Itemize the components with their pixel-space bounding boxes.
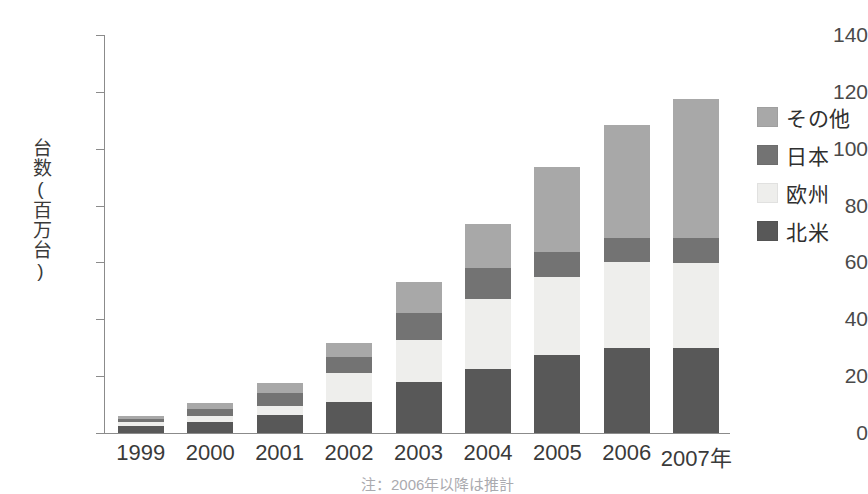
bar-2002 <box>326 343 372 433</box>
plot-area <box>104 35 729 433</box>
x-axis-label-2007: 2007年 <box>659 440 733 472</box>
bar-segment-欧州 <box>673 263 719 348</box>
y-axis-tick-label: 60 <box>778 250 868 274</box>
y-axis-tick <box>96 262 104 263</box>
x-axis-label-2002: 2002 <box>312 440 386 466</box>
chart-legend: その他日本欧州北米 <box>757 100 862 252</box>
x-axis-label-2000: 2000 <box>173 440 247 466</box>
legend-item-欧州[interactable]: 欧州 <box>757 176 862 209</box>
y-axis-tick-label: 40 <box>778 307 868 331</box>
bar-segment-その他 <box>465 224 511 268</box>
bar-segment-日本 <box>326 357 372 373</box>
y-axis-tick-label: 0 <box>778 421 868 445</box>
bar-segment-欧州 <box>326 373 372 402</box>
legend-item-その他[interactable]: その他 <box>757 100 862 133</box>
bar-segment-日本 <box>187 409 233 416</box>
bar-2000 <box>187 403 233 433</box>
bar-segment-日本 <box>534 252 580 277</box>
y-axis-tick <box>96 376 104 377</box>
bar-segment-日本 <box>465 268 511 299</box>
y-axis-title: 台数(百万台) <box>22 138 50 282</box>
legend-swatch-icon <box>757 221 778 241</box>
bar-2006 <box>604 125 650 433</box>
bar-segment-その他 <box>534 167 580 252</box>
x-axis-label-2001: 2001 <box>243 440 317 466</box>
bar-segment-欧州 <box>465 299 511 369</box>
y-axis-tick-label: 140 <box>778 23 868 47</box>
bar-segment-その他 <box>604 125 650 238</box>
bar-segment-欧州 <box>396 340 442 382</box>
legend-item-label: 北米 <box>786 216 829 246</box>
x-axis-line <box>104 433 730 434</box>
bar-segment-日本 <box>673 238 719 263</box>
bar-segment-日本 <box>604 238 650 262</box>
y-axis-tick-label: 20 <box>778 364 868 388</box>
y-axis-tick <box>96 433 104 434</box>
x-axis-label-2004: 2004 <box>451 440 525 466</box>
legend-item-label: 欧州 <box>786 178 829 208</box>
y-axis-tick <box>96 35 104 36</box>
x-axis-label-1999: 1999 <box>104 440 178 466</box>
bar-segment-その他 <box>257 383 303 393</box>
bar-segment-欧州 <box>257 406 303 415</box>
bar-2005 <box>534 167 580 433</box>
y-axis-tick <box>96 319 104 320</box>
legend-item-日本[interactable]: 日本 <box>757 138 862 171</box>
bar-segment-その他 <box>326 343 372 357</box>
y-axis-tick <box>96 92 104 93</box>
bar-segment-その他 <box>673 99 719 238</box>
legend-swatch-icon <box>757 145 778 165</box>
bar-segment-北米 <box>604 348 650 433</box>
bar-segment-北米 <box>257 415 303 433</box>
bar-segment-北米 <box>326 402 372 433</box>
x-axis-label-2006: 2006 <box>590 440 664 466</box>
bar-segment-日本 <box>257 393 303 406</box>
x-axis-label-2003: 2003 <box>382 440 456 466</box>
bar-segment-北米 <box>534 355 580 433</box>
bar-segment-その他 <box>396 282 442 313</box>
bar-2001 <box>257 383 303 433</box>
bar-segment-日本 <box>396 313 442 340</box>
legend-swatch-icon <box>757 107 778 127</box>
legend-swatch-icon <box>757 183 778 203</box>
y-axis-tick <box>96 206 104 207</box>
bar-segment-北米 <box>396 382 442 433</box>
y-axis-tick <box>96 149 104 150</box>
legend-item-北米[interactable]: 北米 <box>757 214 862 247</box>
bar-segment-欧州 <box>534 277 580 355</box>
bar-segment-北米 <box>187 422 233 433</box>
bar-2003 <box>396 282 442 433</box>
bar-1999 <box>118 416 164 433</box>
legend-item-label: 日本 <box>786 140 829 170</box>
bar-2004 <box>465 224 511 433</box>
bar-segment-北米 <box>465 369 511 433</box>
x-axis-label-2005: 2005 <box>520 440 594 466</box>
bar-2007 <box>673 99 719 433</box>
bar-segment-欧州 <box>604 262 650 348</box>
bar-segment-北米 <box>673 348 719 433</box>
chart-footnote: 注：2006年以降は推計 <box>361 473 514 494</box>
legend-item-label: その他 <box>786 102 851 132</box>
bar-segment-北米 <box>118 426 164 433</box>
